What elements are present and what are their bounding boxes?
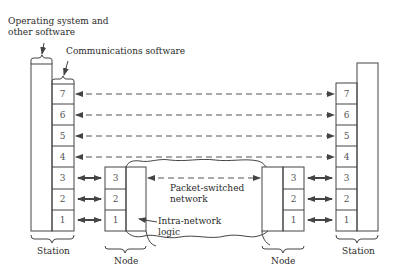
left-station-layer-2: 2 bbox=[52, 194, 73, 204]
network-cloud bbox=[126, 159, 266, 167]
right-node-layer-3: 3 bbox=[283, 173, 304, 183]
right-station-layer-7: 7 bbox=[336, 89, 357, 99]
left-station-layer-6: 6 bbox=[52, 110, 73, 120]
right-node-intra-box bbox=[262, 167, 283, 231]
comms-brace bbox=[52, 76, 74, 84]
left-station-brace bbox=[31, 235, 74, 243]
left-station-label: Station bbox=[37, 246, 70, 256]
intra-network-label-line2: logic bbox=[158, 227, 180, 237]
right-station-layer-3: 3 bbox=[336, 173, 357, 183]
comms-software-label: Communications software bbox=[66, 46, 185, 56]
left-station-os-box bbox=[31, 64, 52, 231]
right-station-layer-6: 6 bbox=[336, 110, 357, 120]
left-station-layer-4: 4 bbox=[52, 152, 73, 162]
intra-network-label-line1: Intra-network bbox=[158, 216, 221, 226]
os-brace bbox=[31, 55, 52, 64]
os-software-label-line1: Operating system and bbox=[8, 16, 109, 26]
left-node-brace bbox=[105, 246, 146, 253]
right-station-layer-2: 2 bbox=[336, 194, 357, 204]
os-software-label-line2: other software bbox=[8, 27, 75, 37]
left-station-layer-7: 7 bbox=[52, 89, 73, 99]
right-station-os-box bbox=[357, 63, 378, 231]
left-station-layer-5: 5 bbox=[52, 131, 73, 141]
right-station-layer-1: 1 bbox=[336, 215, 357, 225]
left-node-layer-3: 3 bbox=[105, 173, 126, 183]
left-node-label: Node bbox=[114, 256, 138, 266]
right-node-layer-2: 2 bbox=[283, 194, 304, 204]
right-node-brace bbox=[262, 246, 304, 253]
left-node-layer-2: 2 bbox=[105, 194, 126, 204]
right-node-layer-1: 1 bbox=[283, 215, 304, 225]
left-node-layer-1: 1 bbox=[105, 215, 126, 225]
right-station-label: Station bbox=[342, 246, 375, 256]
right-node-label: Node bbox=[271, 256, 295, 266]
right-station-brace bbox=[336, 235, 378, 243]
packet-network-label-line2: network bbox=[170, 194, 208, 204]
left-station-layer-3: 3 bbox=[52, 173, 73, 183]
packet-network-label-line1: Packet-switched bbox=[170, 183, 244, 193]
left-node-intra-box bbox=[126, 167, 146, 231]
right-station-layer-5: 5 bbox=[336, 131, 357, 141]
left-station-layer-1: 1 bbox=[52, 215, 73, 225]
right-station-layer-4: 4 bbox=[336, 152, 357, 162]
